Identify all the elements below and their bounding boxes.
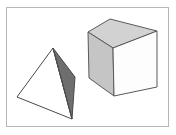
cube [88, 19, 157, 96]
tetrahedron [17, 48, 75, 119]
figure-root [0, 0, 176, 135]
shape-canvas [0, 0, 176, 135]
